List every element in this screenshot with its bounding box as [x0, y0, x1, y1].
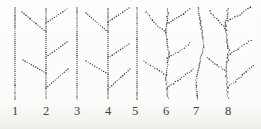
pattern-label-1: 1 — [12, 104, 18, 119]
pattern-label-4: 4 — [105, 104, 111, 119]
pattern-label-3: 3 — [74, 104, 80, 119]
pattern-label-5: 5 — [132, 104, 138, 119]
branching-patterns-figure: 1 2 3 4 5 6 7 8 — [0, 0, 261, 129]
pattern-label-8: 8 — [225, 104, 231, 119]
pattern-label-7: 7 — [193, 104, 199, 119]
pattern-label-6: 6 — [163, 104, 169, 119]
pattern-label-2: 2 — [43, 104, 49, 119]
pattern-number-row: 1 2 3 4 5 6 7 8 — [0, 104, 261, 122]
